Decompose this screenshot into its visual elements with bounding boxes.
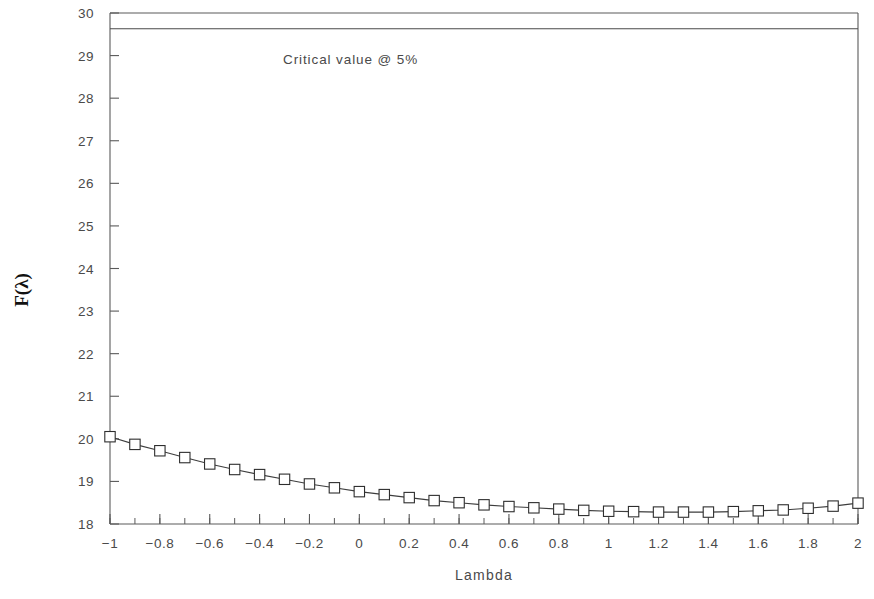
data-point-marker bbox=[479, 500, 489, 510]
data-point-marker bbox=[853, 498, 863, 508]
data-point-marker bbox=[205, 459, 215, 469]
data-point-marker bbox=[254, 469, 264, 479]
x-tick-label: −0.6 bbox=[195, 536, 224, 551]
y-tick-label: 26 bbox=[78, 176, 94, 191]
y-tick-label: 23 bbox=[78, 304, 94, 319]
x-tick-label: 1.6 bbox=[748, 536, 768, 551]
data-point-marker bbox=[379, 489, 389, 499]
data-point-marker bbox=[229, 464, 239, 474]
y-axis-title: F(λ) bbox=[11, 273, 33, 307]
plot-frame bbox=[110, 13, 858, 524]
data-point-marker bbox=[504, 501, 514, 511]
x-tick-label: 1 bbox=[605, 536, 613, 551]
f-lambda-line-chart: 18192021222324252627282930 −1−0.8−0.6−0.… bbox=[0, 0, 874, 599]
chart-figure: 18192021222324252627282930 −1−0.8−0.6−0.… bbox=[0, 0, 874, 599]
data-point-marker bbox=[728, 506, 738, 516]
x-tick-label: 1.2 bbox=[648, 536, 668, 551]
y-tick-label: 28 bbox=[78, 91, 94, 106]
x-tick-label: 0.2 bbox=[399, 536, 419, 551]
data-point-marker bbox=[105, 432, 115, 442]
x-tick-label: 1.4 bbox=[698, 536, 718, 551]
y-tick-label: 27 bbox=[78, 134, 94, 149]
data-point-marker bbox=[628, 506, 638, 516]
data-point-marker bbox=[678, 507, 688, 517]
data-point-marker bbox=[803, 503, 813, 513]
x-tick-label: 0.4 bbox=[449, 536, 469, 551]
x-tick-label: −0.2 bbox=[295, 536, 324, 551]
x-tick-label: 2 bbox=[854, 536, 862, 551]
data-point-marker bbox=[429, 495, 439, 505]
x-tick-label: 0.8 bbox=[549, 536, 569, 551]
data-point-marker bbox=[828, 501, 838, 511]
data-point-marker bbox=[180, 452, 190, 462]
x-axis-title: Lambda bbox=[455, 567, 513, 583]
x-tick-label: 0.6 bbox=[499, 536, 519, 551]
series-markers-f-lambda bbox=[105, 432, 863, 518]
data-point-marker bbox=[329, 483, 339, 493]
y-tick-label: 25 bbox=[78, 219, 94, 234]
y-tick-label: 18 bbox=[78, 517, 94, 532]
x-tick-label: −0.8 bbox=[146, 536, 175, 551]
data-point-marker bbox=[130, 439, 140, 449]
x-tick-label: −0.4 bbox=[245, 536, 274, 551]
data-point-marker bbox=[279, 474, 289, 484]
x-tick-label: 0 bbox=[355, 536, 363, 551]
x-axis-tick-labels: −1−0.8−0.6−0.4−0.200.20.40.60.811.21.41.… bbox=[102, 536, 862, 551]
data-point-marker bbox=[304, 479, 314, 489]
y-tick-label: 22 bbox=[78, 347, 94, 362]
y-tick-label: 19 bbox=[78, 474, 94, 489]
y-tick-label: 21 bbox=[78, 389, 94, 404]
data-point-marker bbox=[753, 506, 763, 516]
y-tick-label: 30 bbox=[78, 6, 94, 21]
y-axis-ticks bbox=[110, 13, 119, 524]
y-tick-label: 24 bbox=[78, 262, 94, 277]
data-point-marker bbox=[404, 492, 414, 502]
critical-value-label: Critical value @ 5% bbox=[283, 52, 418, 67]
data-point-marker bbox=[155, 446, 165, 456]
data-point-marker bbox=[454, 498, 464, 508]
data-point-marker bbox=[554, 504, 564, 514]
data-point-marker bbox=[703, 507, 713, 517]
data-point-marker bbox=[603, 506, 613, 516]
y-axis-tick-labels: 18192021222324252627282930 bbox=[78, 6, 94, 532]
data-point-marker bbox=[529, 503, 539, 513]
data-point-marker bbox=[653, 507, 663, 517]
x-tick-label: −1 bbox=[102, 536, 118, 551]
x-axis-minor-ticks bbox=[110, 518, 858, 524]
data-point-marker bbox=[579, 505, 589, 515]
x-tick-label: 1.8 bbox=[798, 536, 818, 551]
y-tick-label: 20 bbox=[78, 432, 94, 447]
y-tick-label: 29 bbox=[78, 49, 94, 64]
data-point-marker bbox=[354, 486, 364, 496]
data-point-marker bbox=[778, 505, 788, 515]
